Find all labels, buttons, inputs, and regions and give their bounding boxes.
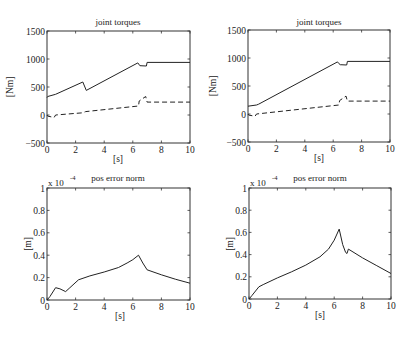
svg-text:x 10: x 10 — [250, 178, 266, 188]
x-tick-label: 10 — [385, 144, 395, 154]
top-left-xlabel: [s] — [113, 154, 123, 164]
y-tick-label: 0.2 — [33, 273, 45, 283]
x-tick-label: 2 — [275, 301, 280, 311]
series-line — [248, 96, 390, 116]
x-tick-label: 8 — [359, 144, 364, 154]
svg-text:-4: -4 — [70, 174, 76, 181]
x-tick-label: 6 — [331, 144, 336, 154]
x-tick-label: 4 — [302, 144, 307, 154]
y-tick-label: 1500 — [227, 26, 246, 36]
y-tick-label: 0.6 — [235, 228, 247, 238]
y-tick-label: 0 — [40, 296, 45, 306]
top-right-xlabel: [s] — [314, 153, 324, 163]
top-left-title: joint torques — [94, 17, 141, 27]
y-tick-label: 500 — [232, 82, 247, 92]
plot-top-right-joint-torques: 0246810−500050010001500 — [226, 26, 395, 155]
y-tick-label: 0 — [242, 295, 247, 305]
x-tick-label: 4 — [303, 301, 308, 311]
x-tick-label: 6 — [332, 301, 337, 311]
y-tick-label: −500 — [25, 139, 45, 149]
bottom-left-xlabel: [s] — [115, 311, 125, 321]
y-tick-label: −500 — [226, 138, 246, 148]
bottom-right-scale-annotation: x 10 -4 — [250, 174, 278, 188]
x-tick-label: 8 — [159, 145, 164, 155]
figure: 0246810−500050010001500 0246810−50005001… — [0, 0, 412, 339]
x-tick-label: 2 — [274, 144, 279, 154]
axes-box — [248, 30, 390, 142]
plot-top-left-joint-torques: 0246810−500050010001500 — [25, 27, 195, 156]
y-tick-label: 1000 — [26, 55, 45, 65]
y-tick-label: 0 — [241, 110, 246, 120]
x-tick-label: 2 — [73, 145, 78, 155]
series-line — [47, 97, 190, 118]
y-tick-label: 0.4 — [33, 251, 45, 261]
x-tick-label: 2 — [73, 302, 78, 312]
y-tick-label: 1 — [242, 184, 247, 194]
x-tick-label: 8 — [360, 301, 365, 311]
bottom-left-ylabel: [m] — [23, 237, 33, 251]
y-tick-label: 500 — [31, 83, 46, 93]
y-tick-label: 0.6 — [33, 228, 45, 238]
series-line — [249, 229, 391, 299]
x-tick-label: 4 — [102, 145, 107, 155]
axes-box — [249, 188, 391, 299]
x-tick-label: 6 — [130, 145, 135, 155]
x-tick-label: 0 — [247, 301, 252, 311]
bottom-left-title: pos error norm — [91, 173, 145, 183]
series-line — [47, 62, 190, 97]
svg-text:-4: -4 — [272, 174, 278, 181]
series-line — [47, 255, 190, 300]
x-tick-label: 0 — [246, 144, 251, 154]
series-line — [248, 61, 390, 106]
x-tick-label: 0 — [45, 145, 50, 155]
x-tick-label: 0 — [45, 302, 50, 312]
svg-text:x 10: x 10 — [48, 178, 64, 188]
plot-bottom-left-pos-error: 024681000.20.40.60.81 — [33, 184, 195, 313]
x-tick-label: 10 — [386, 301, 396, 311]
x-tick-label: 4 — [102, 302, 107, 312]
x-tick-label: 10 — [185, 302, 195, 312]
y-tick-label: 0 — [40, 111, 45, 121]
y-tick-label: 0.4 — [235, 250, 247, 260]
y-tick-label: 1 — [40, 184, 45, 194]
bottom-left-scale-annotation: x 10 -4 — [48, 174, 76, 188]
top-right-ylabel: [Nm] — [208, 76, 218, 97]
y-tick-label: 0.2 — [235, 272, 247, 282]
y-tick-label: 1000 — [227, 54, 246, 64]
x-tick-label: 10 — [185, 145, 195, 155]
bottom-right-xlabel: [s] — [315, 310, 325, 320]
y-tick-label: 0.8 — [33, 206, 45, 216]
plot-bottom-right-pos-error: 024681000.20.40.60.81 — [235, 184, 396, 312]
y-tick-label: 0.8 — [235, 206, 247, 216]
bottom-right-ylabel: [m] — [225, 237, 235, 251]
x-tick-label: 6 — [130, 302, 135, 312]
top-left-ylabel: [Nm] — [5, 77, 15, 98]
x-tick-label: 8 — [159, 302, 164, 312]
axes-box — [47, 31, 190, 143]
axes-box — [47, 188, 190, 300]
bottom-right-title: pos error norm — [293, 173, 347, 183]
top-right-title: joint torques — [295, 17, 342, 27]
y-tick-label: 1500 — [26, 27, 45, 37]
